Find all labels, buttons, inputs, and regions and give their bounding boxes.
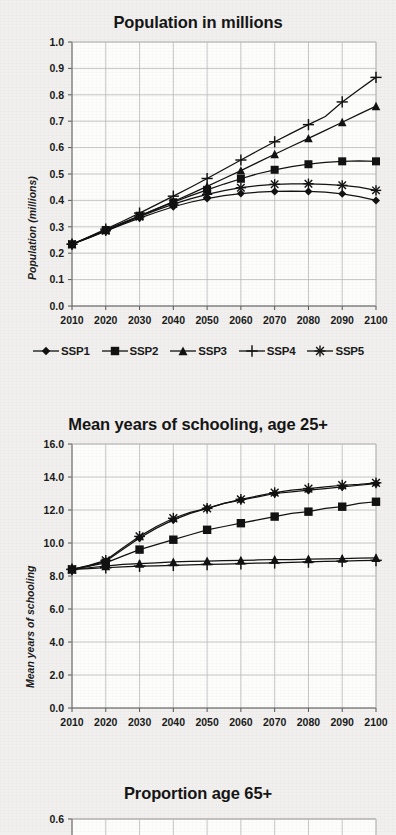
y-axis-tick-label: 2.0: [49, 669, 64, 681]
marker-asterisk: [315, 346, 326, 357]
population-chart-svg: 0.00.10.20.30.40.50.60.70.80.91.02010202…: [0, 34, 396, 339]
y-axis-tick-label: 0.5: [49, 168, 64, 180]
y-axis-tick-label: 14.0: [44, 471, 65, 483]
marker-asterisk: [371, 477, 382, 488]
marker-square: [110, 347, 118, 355]
marker-asterisk: [202, 503, 213, 514]
x-axis-tick-label: 2010: [60, 314, 84, 326]
x-axis-tick-label: 2100: [364, 314, 388, 326]
legend-label: SSP3: [198, 345, 227, 357]
legend-triangle-icon: [169, 343, 197, 359]
marker-square: [338, 157, 346, 165]
figure-schooling-plot: Mean years of schooling 0.02.04.06.08.01…: [0, 436, 396, 741]
legend-diamond-icon: [32, 343, 60, 359]
figure-proportion65: Proportion age 65+ 0.6: [0, 781, 396, 835]
legend-label: SSP5: [335, 345, 364, 357]
marker-asterisk: [100, 555, 111, 566]
marker-asterisk: [269, 487, 280, 498]
marker-asterisk: [101, 226, 111, 236]
x-axis-tick-label: 2030: [128, 716, 152, 728]
y-axis-tick-label: 12.0: [44, 504, 65, 516]
marker-asterisk: [67, 239, 77, 249]
legend-item-ssp2: SSP2: [101, 343, 159, 359]
schooling-chart-svg: 0.02.04.06.08.010.012.014.016.0201020202…: [0, 436, 396, 741]
legend-square-icon: [101, 343, 129, 359]
marker-square: [304, 160, 312, 168]
legend-asterisk-icon: [306, 343, 334, 359]
marker-square: [169, 536, 177, 544]
x-axis-tick-label: 2040: [162, 716, 186, 728]
figure-proportion65-title: Proportion age 65+: [0, 781, 396, 805]
x-axis-tick-label: 2080: [297, 716, 321, 728]
marker-asterisk: [134, 531, 145, 542]
y-axis-tick-label: 10.0: [44, 537, 65, 549]
figure-schooling-ylabel: Mean years of schooling: [24, 565, 36, 688]
x-axis-tick-label: 2020: [94, 314, 118, 326]
x-axis-tick-label: 2050: [195, 314, 219, 326]
marker-asterisk: [303, 179, 313, 189]
y-axis-tick-label: 0.6: [49, 141, 64, 153]
marker-asterisk: [269, 179, 279, 189]
x-axis-tick-label: 2090: [331, 314, 355, 326]
marker-asterisk: [202, 189, 212, 199]
y-axis-tick-label: 0.8: [49, 89, 64, 101]
figure-population-plot: Population (millions) 0.00.10.20.30.40.5…: [0, 34, 396, 339]
figure-population-ylabel: Population (millions): [26, 176, 38, 280]
y-axis-tick-label: 1.0: [49, 36, 64, 48]
marker-square: [203, 526, 211, 534]
x-axis-tick-label: 2060: [229, 716, 253, 728]
figure-population: Population in millions Population (milli…: [0, 10, 396, 359]
x-axis-tick-label: 2070: [263, 314, 287, 326]
legend-item-ssp1: SSP1: [32, 343, 90, 359]
figure-proportion65-plot: 0.6: [0, 805, 396, 835]
figure-schooling-title: Mean years of schooling, age 25+: [0, 412, 396, 436]
x-axis-tick-label: 2010: [60, 716, 84, 728]
ssp-legend: SSP1SSP2SSP3SSP4SSP5: [0, 343, 396, 359]
marker-square: [237, 175, 245, 183]
y-axis-tick-label: 4.0: [49, 636, 64, 648]
marker-asterisk: [168, 199, 178, 209]
x-axis-tick-label: 2020: [94, 716, 118, 728]
marker-asterisk: [235, 494, 246, 505]
marker-asterisk: [67, 564, 78, 575]
x-axis-tick-label: 2070: [263, 716, 287, 728]
y-axis-tick-label: 0.7: [49, 115, 64, 127]
marker-asterisk: [168, 513, 179, 524]
marker-square: [304, 507, 312, 515]
y-axis-tick-label: 0.4: [49, 194, 64, 206]
figure-schooling: Mean years of schooling, age 25+ Mean ye…: [0, 412, 396, 741]
legend-label: SSP4: [267, 345, 296, 357]
y-axis-tick-label: 16.0: [44, 438, 65, 450]
figure-population-title: Population in millions: [0, 10, 396, 34]
marker-square: [135, 545, 143, 553]
y-axis-tick-label: 0.2: [49, 247, 64, 259]
y-axis-tick-label: 0.9: [49, 62, 64, 74]
marker-square: [338, 503, 346, 511]
proportion65-chart-svg: 0.6: [0, 805, 396, 835]
x-axis-tick-label: 2060: [229, 314, 253, 326]
marker-asterisk: [236, 183, 246, 193]
legend-plus-icon: [238, 343, 266, 359]
legend-item-ssp3: SSP3: [169, 343, 227, 359]
marker-square: [372, 498, 380, 506]
marker-diamond: [42, 347, 50, 355]
y-axis-tick-label: 0.1: [49, 273, 64, 285]
y-axis-tick-label: 8.0: [49, 570, 64, 582]
x-axis-tick-label: 2040: [162, 314, 186, 326]
marker-plus: [246, 345, 258, 357]
marker-square: [372, 157, 380, 165]
marker-square: [270, 512, 278, 520]
x-axis-tick-label: 2080: [297, 314, 321, 326]
legend-label: SSP1: [61, 345, 90, 357]
marker-square: [237, 519, 245, 527]
marker-asterisk: [303, 483, 314, 494]
marker-square: [271, 166, 279, 174]
legend-label: SSP2: [130, 345, 159, 357]
x-axis-tick-label: 2050: [195, 716, 219, 728]
y-axis-tick-label: 0.0: [49, 300, 64, 312]
marker-asterisk: [337, 180, 347, 190]
y-axis-tick-label: 6.0: [49, 603, 64, 615]
plot-background: [72, 819, 376, 835]
legend-item-ssp5: SSP5: [306, 343, 364, 359]
